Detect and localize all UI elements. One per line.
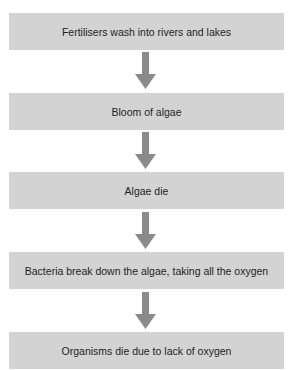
step-box-1: Fertilisers wash into rivers and lakes <box>9 13 284 50</box>
step-box-2: Bloom of algae <box>9 93 284 130</box>
down-arrow-icon <box>135 292 156 330</box>
step-label: Algae die <box>125 185 169 197</box>
step-label: Organisms die due to lack of oxygen <box>62 345 232 357</box>
step-box-5: Organisms die due to lack of oxygen <box>9 332 284 369</box>
step-label: Bloom of algae <box>111 106 181 118</box>
step-box-4: Bacteria break down the algae, taking al… <box>9 252 284 289</box>
down-arrow-icon <box>135 132 156 170</box>
step-box-3: Algae die <box>9 172 284 209</box>
step-label: Bacteria break down the algae, taking al… <box>25 265 268 277</box>
down-arrow-icon <box>135 212 156 250</box>
step-label: Fertilisers wash into rivers and lakes <box>62 26 231 38</box>
down-arrow-icon <box>135 52 156 90</box>
